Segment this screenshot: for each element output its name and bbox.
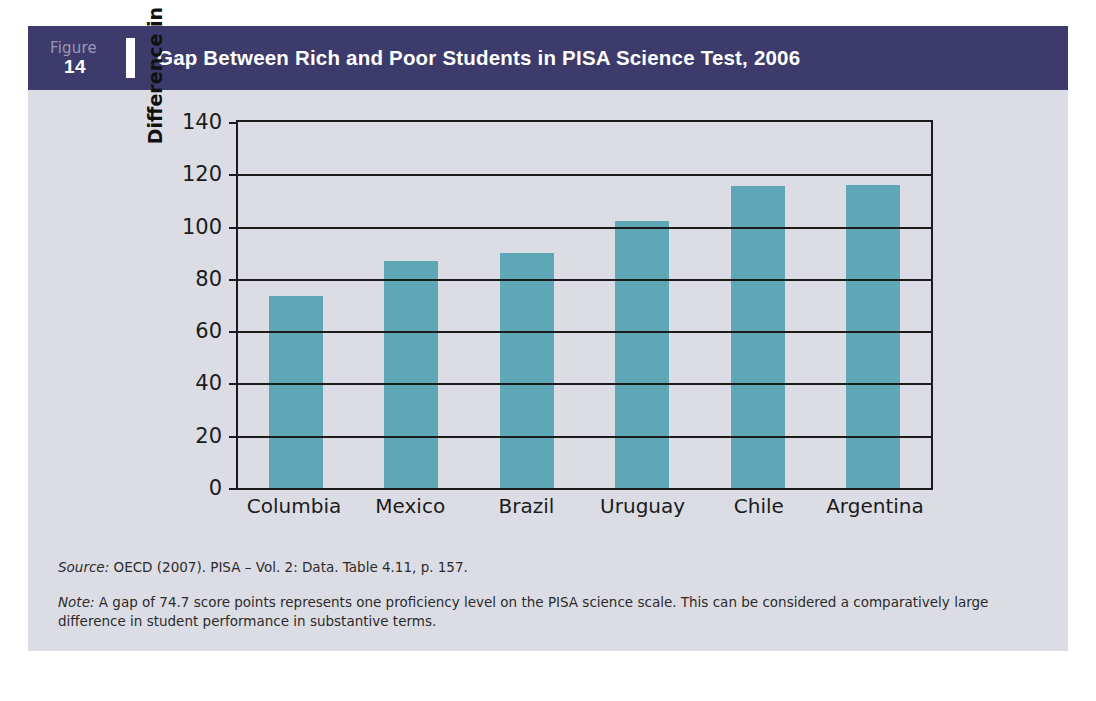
- bar[interactable]: [269, 296, 323, 488]
- y-axis-tick-label: 80: [195, 267, 222, 291]
- gridline: [238, 174, 931, 176]
- gridline: [238, 383, 931, 385]
- y-axis-title-text: Difference in mean score (points): [144, 0, 166, 150]
- figure-card: Figure 14 Gap Between Rich and Poor Stud…: [28, 26, 1068, 651]
- x-axis-category-label: Chile: [734, 494, 784, 518]
- figure-number: 14: [50, 56, 86, 77]
- bar-slot: [354, 122, 470, 488]
- bars-layer: [238, 122, 931, 488]
- y-axis-tick: [229, 331, 238, 333]
- plot-area: 020406080100120140: [236, 120, 933, 490]
- bar-slot: [469, 122, 585, 488]
- y-axis-tick-label: 60: [195, 319, 222, 343]
- bar[interactable]: [500, 253, 554, 488]
- y-axis-tick: [229, 279, 238, 281]
- gridline: [238, 227, 931, 229]
- bar-slot: [700, 122, 816, 488]
- figure-number-block: Figure 14: [28, 40, 124, 77]
- x-axis-category-label: Brazil: [499, 494, 555, 518]
- bar[interactable]: [615, 221, 669, 488]
- y-axis-tick-label: 100: [182, 215, 222, 239]
- figure-label-word: Figure: [50, 40, 97, 56]
- bar-slot: [238, 122, 354, 488]
- y-axis-title: Difference in mean score (points): [144, 0, 172, 150]
- figure-header-band: Figure 14 Gap Between Rich and Poor Stud…: [28, 26, 1068, 90]
- y-axis-tick-label: 40: [195, 371, 222, 395]
- x-axis-category-slot: Mexico: [352, 494, 468, 518]
- y-axis-tick: [229, 174, 238, 176]
- y-axis-tick: [229, 436, 238, 438]
- source-label: Source:: [58, 559, 109, 575]
- y-axis-tick: [229, 488, 238, 490]
- y-axis-tick: [229, 122, 238, 124]
- figure-title: Gap Between Rich and Poor Students in PI…: [157, 46, 800, 70]
- note-label: Note:: [58, 594, 95, 610]
- figure-footnotes: Source: OECD (2007). PISA – Vol. 2: Data…: [28, 558, 1068, 631]
- y-axis-tick: [229, 383, 238, 385]
- note-text: A gap of 74.7 score points represents on…: [58, 594, 988, 629]
- x-axis-category-label: Mexico: [375, 494, 445, 518]
- gridline: [238, 436, 931, 438]
- x-axis-category-labels: ColumbiaMexicoBrazilUruguayChileArgentin…: [236, 494, 933, 518]
- gridline: [238, 279, 931, 281]
- y-axis-tick-label: 0: [209, 476, 222, 500]
- note-line: Note: A gap of 74.7 score points represe…: [58, 593, 1038, 631]
- bar[interactable]: [731, 186, 785, 488]
- y-axis-tick-label: 140: [182, 110, 222, 134]
- x-axis-category-slot: Argentina: [817, 494, 933, 518]
- x-axis-category-slot: Columbia: [236, 494, 352, 518]
- bar-slot: [816, 122, 932, 488]
- figure-page: Figure 14 Gap Between Rich and Poor Stud…: [0, 0, 1096, 701]
- chart-body: Difference in mean score (points) 020406…: [28, 90, 1068, 558]
- bar[interactable]: [846, 185, 900, 488]
- x-axis-category-label: Columbia: [247, 494, 341, 518]
- y-axis-tick: [229, 227, 238, 229]
- bar[interactable]: [384, 261, 438, 488]
- bar-slot: [585, 122, 701, 488]
- x-axis-category-slot: Brazil: [468, 494, 584, 518]
- y-axis-tick-label: 20: [195, 424, 222, 448]
- gridline: [238, 331, 931, 333]
- source-line: Source: OECD (2007). PISA – Vol. 2: Data…: [58, 558, 1038, 576]
- header-divider: [126, 38, 135, 78]
- x-axis-category-label: Uruguay: [600, 494, 685, 518]
- y-axis-tick-label: 120: [182, 162, 222, 186]
- x-axis-category-slot: Chile: [701, 494, 817, 518]
- x-axis-category-label: Argentina: [826, 494, 924, 518]
- source-text: OECD (2007). PISA – Vol. 2: Data. Table …: [109, 559, 468, 575]
- x-axis-category-slot: Uruguay: [585, 494, 701, 518]
